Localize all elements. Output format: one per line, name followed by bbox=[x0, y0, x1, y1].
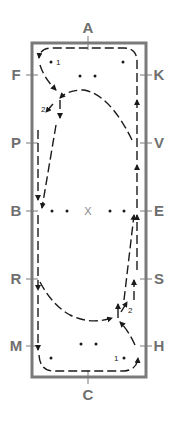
marker-b: B bbox=[11, 202, 22, 219]
marker-a: A bbox=[83, 19, 94, 36]
marker-s: S bbox=[154, 270, 164, 287]
dressage-arena-diagram: A C F P B R M K V E S H X 1 2 1 2 bbox=[0, 0, 174, 421]
marker-m: M bbox=[10, 337, 23, 354]
label-1-bottom: 1 bbox=[114, 354, 119, 363]
label-1-top: 1 bbox=[56, 58, 61, 67]
marker-v: V bbox=[154, 134, 164, 151]
marker-e: E bbox=[154, 202, 164, 219]
label-2-top: 2 bbox=[41, 105, 46, 114]
marker-c: C bbox=[83, 386, 94, 403]
marker-p: P bbox=[11, 134, 21, 151]
label-2-bottom: 2 bbox=[128, 306, 133, 315]
marker-f: F bbox=[11, 66, 20, 83]
marker-r: R bbox=[11, 270, 22, 287]
marker-x: X bbox=[84, 205, 92, 217]
marker-k: K bbox=[154, 66, 165, 83]
marker-h: H bbox=[154, 337, 165, 354]
